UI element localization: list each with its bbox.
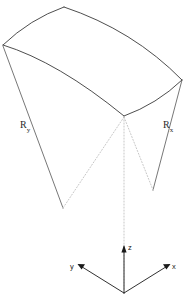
center-marker-x xyxy=(152,189,154,191)
surface-edge-top-left xyxy=(3,7,64,45)
construction-line-to-center-x xyxy=(124,117,153,190)
radius-x-label: Rx xyxy=(163,120,173,133)
radius-y-symbol: R xyxy=(20,119,27,130)
axis-y-label: y xyxy=(70,263,74,271)
axis-x-line xyxy=(124,265,169,293)
radius-x-line xyxy=(153,80,182,190)
construction-line-to-center-y xyxy=(63,117,124,208)
axis-y-arrowhead xyxy=(78,264,86,270)
radius-x-symbol: R xyxy=(163,119,170,130)
diagram-canvas xyxy=(0,0,189,299)
surface-edge-top-right xyxy=(64,7,182,80)
surface-edge-bottom-right xyxy=(124,80,182,116)
radius-x-subscript: x xyxy=(170,126,174,134)
axis-z-arrowhead xyxy=(121,245,126,253)
axis-x-arrowhead xyxy=(163,264,171,270)
shell-curvature-diagram: Ry Rx z x y xyxy=(0,0,189,299)
axis-z-label: z xyxy=(128,244,132,252)
construction-lines xyxy=(63,117,153,290)
radius-y-subscript: y xyxy=(27,126,31,134)
radius-y-label: Ry xyxy=(20,120,30,133)
axis-x-label: x xyxy=(172,263,176,271)
curved-shell-surface xyxy=(3,7,182,116)
axis-y-line xyxy=(79,265,124,293)
radius-y-line xyxy=(3,46,63,208)
curvature-center-markers xyxy=(62,189,154,209)
coordinate-axes xyxy=(79,247,169,293)
surface-edge-bottom-left xyxy=(3,45,124,116)
center-marker-y xyxy=(62,207,64,209)
